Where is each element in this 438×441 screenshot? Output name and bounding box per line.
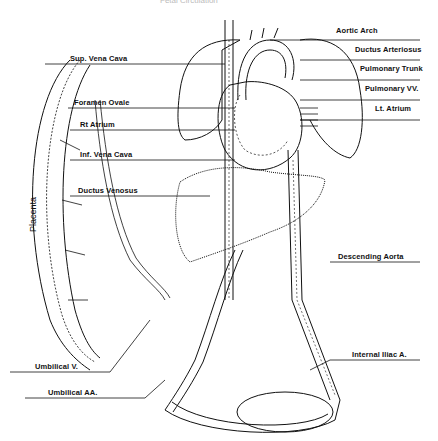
label-aortic-arch: Aortic Arch	[336, 26, 378, 35]
bladder	[237, 392, 333, 432]
label-sup-vena-cava: Sup. Vena Cava	[70, 54, 127, 63]
label-umbilical-v: Umbilical V.	[35, 362, 78, 371]
heart	[218, 82, 302, 170]
label-ductus-venosus: Ductus Venosus	[78, 186, 138, 195]
label-lt-atrium: Lt. Atrium	[375, 104, 411, 113]
label-placenta: Placenta	[28, 197, 38, 232]
right-lung	[178, 40, 240, 140]
label-internal-iliac: Internal Iliac A.	[352, 350, 407, 359]
umbilical-arteries	[165, 400, 340, 432]
umbilical-vein	[165, 250, 235, 410]
label-ductus-arteriosus: Ductus Arteriosus	[355, 45, 421, 54]
label-inf-vena-cava: Inf. Vena Cava	[80, 150, 132, 159]
label-rt-atrium: Rt Atrium	[80, 120, 115, 129]
liver	[176, 168, 325, 262]
label-descending-aorta: Descending Aorta	[338, 252, 404, 261]
left-lung	[300, 39, 362, 158]
label-pulmonary-trunk: Pulmonary Trunk	[360, 64, 423, 73]
descending-aorta	[288, 150, 340, 400]
label-umbilical-aa: Umbilical AA.	[48, 388, 97, 397]
label-foramen-ovale: Foramen Ovale	[74, 98, 130, 107]
label-pulmonary-vv: Pulmonary VV.	[365, 84, 419, 93]
